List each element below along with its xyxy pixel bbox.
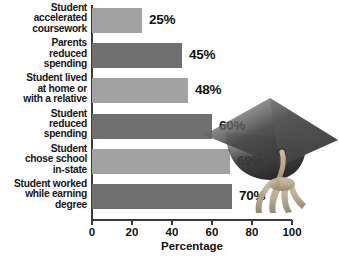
category-label: Student workedwhile earningdegree (0, 179, 87, 210)
bar (92, 8, 142, 33)
bar (92, 184, 232, 209)
bar-value-label: 60% (219, 118, 245, 133)
bar-value-label: 48% (195, 82, 221, 97)
x-tick (251, 220, 253, 225)
bar-chart: Studentacceleratedcoursework25%Parentsre… (0, 0, 339, 263)
x-tick (291, 220, 293, 225)
bar-row: Studentreducedspending60% (0, 111, 339, 142)
x-tick (131, 220, 133, 225)
category-label: Studentacceleratedcoursework (0, 3, 87, 34)
bar (92, 43, 182, 68)
bar-value-label: 45% (189, 47, 215, 62)
bar-row: Parentsreducedspending45% (0, 40, 339, 71)
category-label: Parentsreducedspending (0, 38, 87, 69)
bar-value-label: 25% (149, 12, 175, 27)
x-axis-title: Percentage (92, 240, 292, 252)
bar-row: Studentacceleratedcoursework25% (0, 5, 339, 36)
x-tick (171, 220, 173, 225)
bar (92, 114, 212, 139)
bar-value-label: 69% (237, 153, 263, 168)
x-tick (91, 220, 93, 225)
chart-root: Studentacceleratedcoursework25%Parentsre… (0, 0, 339, 263)
x-tick (211, 220, 213, 225)
x-tick-label: 80 (246, 226, 259, 238)
x-tick-label: 20 (126, 226, 139, 238)
x-tick-label: 40 (166, 226, 179, 238)
category-label: Studentchose schoolin-state (0, 144, 87, 175)
x-tick-label: 0 (89, 226, 95, 238)
category-label: Student livedat home orwith a relative (0, 73, 87, 104)
x-tick-label: 100 (282, 226, 301, 238)
x-tick-label: 60 (206, 226, 219, 238)
bar (92, 78, 188, 103)
x-axis-line (91, 219, 292, 221)
bar (92, 149, 230, 174)
bar-row: Student livedat home orwith a relative48… (0, 75, 339, 106)
category-label: Studentreducedspending (0, 109, 87, 140)
bar-row: Student workedwhile earningdegree70% (0, 181, 339, 212)
bar-row: Studentchose schoolin-state69% (0, 146, 339, 177)
bar-value-label: 70% (239, 188, 265, 203)
